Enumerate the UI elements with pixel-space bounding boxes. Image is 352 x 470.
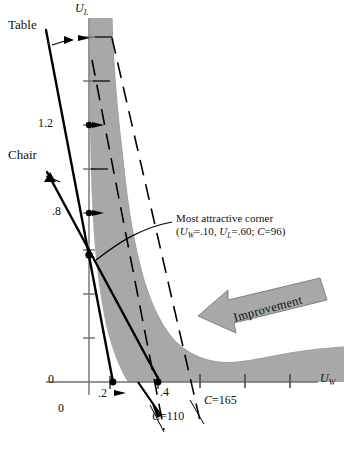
y-tick-label-0-8: .8 xyxy=(52,205,61,219)
y-tick-label-1-2: 1.2 xyxy=(38,117,53,131)
callout-line-1: Most attractive corner xyxy=(176,212,285,225)
most-attractive-corner-callout: Most attractive corner (UW=.10, UL=.60; … xyxy=(176,212,285,240)
table-x-intercept-point xyxy=(110,379,117,386)
c165-leader-line xyxy=(190,400,204,424)
x-tick-label-0: 0 xyxy=(58,402,64,416)
x-tick-label-0-4: .4 xyxy=(160,386,169,400)
y-axis-label: UL xyxy=(75,2,88,18)
x-tick-label-0-2: .2 xyxy=(98,387,107,401)
chair-label-arrowhead xyxy=(44,172,56,182)
table-label-arrowhead xyxy=(64,36,74,44)
production-possibility-chart: UL UW Table Chair 1.2 .8 0 0 .2 .4 C=110… xyxy=(0,0,352,470)
isocost-label-c165: C=165 xyxy=(204,394,237,408)
most-attractive-corner-point xyxy=(85,251,92,258)
callout-line-2: (UW=.10, UL=.60; C=96) xyxy=(176,225,285,241)
series-label-table: Table xyxy=(8,18,37,33)
isocost-label-c110: C=110 xyxy=(152,410,184,424)
x-axis-label: UW xyxy=(320,372,335,388)
y-tick-label-0: 0 xyxy=(48,373,54,387)
series-label-chair: Chair xyxy=(8,148,37,163)
